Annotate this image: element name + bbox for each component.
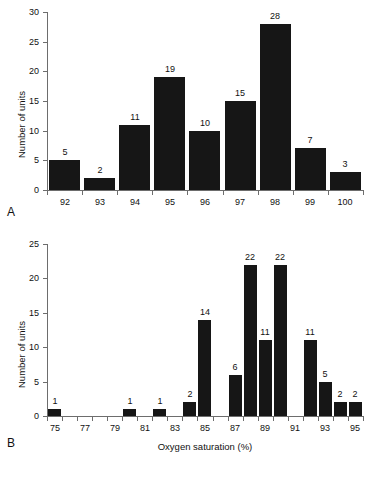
panel-a-y-axis-line: [47, 12, 48, 191]
bar: [349, 402, 362, 416]
panel-a-x-tick-label: 97: [226, 198, 254, 207]
panel-b-x-tick-label: 81: [131, 424, 159, 433]
panel-b-x-tick: [47, 417, 48, 421]
panel-b-x-tick: [303, 417, 304, 421]
panel-b-x-tick-label: 83: [161, 424, 189, 433]
figure-container: Number of units A 0510152025309293949596…: [0, 0, 374, 479]
panel-a-x-tick: [293, 191, 294, 195]
panel-b-plot-area: 0510152025757779818385878991939511121462…: [47, 244, 363, 416]
bar: [334, 402, 347, 416]
bar-value-label: 10: [191, 119, 219, 128]
panel-b-y-tick: [43, 278, 47, 279]
panel-a-y-tick-label: 10: [11, 127, 39, 136]
panel-b-y-tick-label: 0: [11, 412, 39, 421]
panel-b-x-tick-label: 87: [221, 424, 249, 433]
bar: [198, 320, 211, 416]
panel-b-x-tick: [228, 417, 229, 421]
panel-a-x-tick: [328, 191, 329, 195]
panel-a-x-tick: [82, 191, 83, 195]
bar: [123, 409, 136, 416]
panel-a-y-tick-label: 15: [11, 97, 39, 106]
panel-b-letter: B: [7, 436, 15, 450]
bar: [259, 340, 272, 416]
panel-b-x-tick: [273, 417, 274, 421]
bar-value-label: 22: [236, 253, 264, 262]
panel-b-x-tick: [167, 417, 168, 421]
bar-value-label: 28: [261, 12, 289, 21]
panel-b-x-tick: [363, 417, 364, 421]
panel-b: Number of units Oxygen saturation (%) B …: [0, 236, 374, 479]
panel-a-x-tick: [152, 191, 153, 195]
panel-a-x-tick-label: 99: [296, 198, 324, 207]
bar: [319, 382, 332, 416]
bar-value-label: 5: [311, 370, 339, 379]
panel-a-y-tick: [43, 42, 47, 43]
bar-value-label: 11: [296, 328, 324, 337]
bar-value-label: 1: [116, 397, 144, 406]
panel-b-y-tick: [43, 347, 47, 348]
bar-value-label: 11: [121, 113, 149, 122]
panel-a-y-tick: [43, 101, 47, 102]
panel-b-y-tick-label: 25: [11, 240, 39, 249]
panel-b-y-tick-label: 20: [11, 274, 39, 283]
panel-b-x-tick: [213, 417, 214, 421]
panel-b-x-tick-label: 89: [251, 424, 279, 433]
bar: [295, 148, 326, 190]
bar: [183, 402, 196, 416]
panel-b-x-tick: [62, 417, 63, 421]
panel-a-x-axis-line: [47, 190, 364, 191]
panel-b-x-tick: [243, 417, 244, 421]
panel-a-x-tick-label: 95: [156, 198, 184, 207]
bar-value-label: 15: [226, 89, 254, 98]
bar: [153, 409, 166, 416]
panel-a-x-tick: [223, 191, 224, 195]
panel-a-x-tick: [117, 191, 118, 195]
bar: [244, 265, 257, 416]
panel-a-y-tick: [43, 71, 47, 72]
panel-b-x-tick: [333, 417, 334, 421]
panel-b-y-tick-label: 10: [11, 343, 39, 352]
panel-b-x-tick: [348, 417, 349, 421]
panel-b-x-tick: [152, 417, 153, 421]
panel-b-x-tick: [318, 417, 319, 421]
bar: [84, 178, 115, 190]
panel-a-y-tick-label: 5: [11, 156, 39, 165]
panel-b-x-tick: [197, 417, 198, 421]
panel-a-x-tick-label: 92: [51, 198, 79, 207]
bar-value-label: 3: [331, 160, 359, 169]
panel-b-y-tick: [43, 313, 47, 314]
bar-value-label: 1: [146, 397, 174, 406]
panel-a-x-tick-label: 94: [121, 198, 149, 207]
panel-a: Number of units A 0510152025309293949596…: [0, 0, 374, 228]
panel-a-x-tick-label: 96: [191, 198, 219, 207]
bar-value-label: 1: [41, 397, 69, 406]
panel-b-x-tick: [288, 417, 289, 421]
bar: [48, 409, 61, 416]
panel-b-x-tick-label: 85: [191, 424, 219, 433]
bar: [154, 77, 185, 190]
bar: [189, 131, 220, 190]
panel-a-y-tick-label: 20: [11, 67, 39, 76]
panel-b-x-tick-label: 95: [341, 424, 369, 433]
bar: [119, 125, 150, 190]
panel-a-x-tick-label: 98: [261, 198, 289, 207]
panel-a-y-tick: [43, 12, 47, 13]
panel-b-x-axis-line: [47, 416, 364, 417]
bar-value-label: 5: [51, 148, 79, 157]
panel-a-x-tick: [47, 191, 48, 195]
panel-b-x-tick-label: 91: [281, 424, 309, 433]
panel-b-x-tick: [107, 417, 108, 421]
panel-a-plot-area: 0510152025309293949596979899100521119101…: [47, 12, 363, 190]
bar: [49, 160, 80, 190]
panel-a-letter: A: [7, 205, 15, 219]
panel-a-y-tick-label: 25: [11, 38, 39, 47]
panel-b-x-tick: [92, 417, 93, 421]
panel-b-y-tick-label: 15: [11, 309, 39, 318]
panel-a-y-tick: [43, 131, 47, 132]
panel-b-x-tick: [77, 417, 78, 421]
panel-b-x-tick: [258, 417, 259, 421]
bar: [225, 101, 256, 190]
bar-value-label: 7: [296, 136, 324, 145]
bar-value-label: 22: [266, 253, 294, 262]
panel-b-x-tick-label: 75: [41, 424, 69, 433]
